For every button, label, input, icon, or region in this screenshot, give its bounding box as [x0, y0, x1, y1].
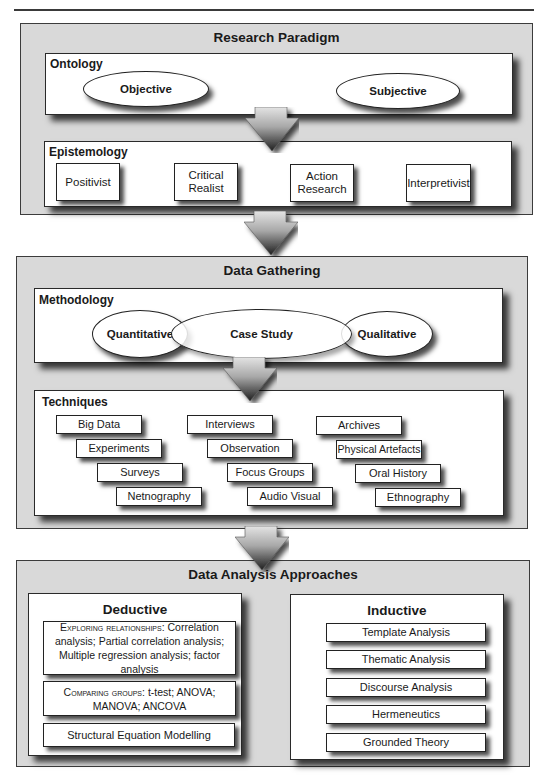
epistemology-interpretivist: Interpretivist [406, 164, 471, 202]
ontology-subjective: Subjective [336, 73, 460, 109]
arrow-down-icon [223, 357, 277, 403]
inductive-box: Inductive Template Analysis Thematic Ana… [290, 594, 504, 760]
technique-archives: Archives [316, 416, 402, 435]
epistemology-positivist: Positivist [56, 163, 120, 201]
deductive-comparing-groups: Comparing groups: t-test; ANOVA; MANOVA;… [43, 681, 236, 716]
technique-interviews: Interviews [187, 415, 273, 434]
epistemology-action-research: Action Research [290, 164, 354, 202]
ontology-objective: Objective [83, 71, 209, 107]
ontology-box: Ontology Objective Subjective [45, 53, 513, 115]
deductive-exploring-relationships: Exploring relationships: Correlation ana… [43, 621, 236, 675]
arrow-down-icon [245, 107, 299, 153]
deductive-sem: Structural Equation Modelling [43, 723, 235, 747]
techniques-box: Techniques Big Data Experiments Surveys … [34, 390, 504, 516]
deductive-title: Deductive [29, 602, 241, 617]
arrow-down-icon [235, 526, 289, 572]
research-paradigm-title: Research Paradigm [21, 30, 532, 45]
technique-focus-groups: Focus Groups [227, 463, 313, 482]
inductive-grounded-theory: Grounded Theory [326, 733, 486, 752]
inductive-template-analysis: Template Analysis [326, 623, 486, 642]
methodology-qualitative: Qualitative [341, 311, 433, 357]
inductive-thematic-analysis: Thematic Analysis [326, 650, 486, 669]
header-rule [14, 9, 534, 11]
ontology-title: Ontology [50, 57, 103, 71]
methodology-case-study: Case Study [171, 309, 352, 359]
technique-audio-visual: Audio Visual [247, 487, 333, 506]
data-gathering-title: Data Gathering [17, 263, 527, 278]
epistemology-critical-realist: Critical Realist [174, 163, 238, 201]
inductive-hermeneutics: Hermeneutics [326, 705, 486, 724]
comparing-groups-lead: Comparing groups [64, 686, 142, 698]
epistemology-title: Epistemology [49, 145, 128, 159]
technique-observation: Observation [207, 439, 293, 458]
exploring-relationships-lead: Exploring relationships [60, 621, 162, 633]
technique-experiments: Experiments [76, 439, 162, 458]
arrow-down-icon [244, 211, 298, 257]
technique-ethnography: Ethnography [375, 488, 461, 507]
technique-big-data: Big Data [56, 415, 142, 434]
technique-netnography: Netnography [116, 487, 202, 506]
methodology-title: Methodology [39, 293, 114, 307]
techniques-title: Techniques [42, 395, 108, 409]
technique-surveys: Surveys [97, 463, 183, 482]
technique-oral-history: Oral History [355, 464, 441, 483]
inductive-discourse-analysis: Discourse Analysis [326, 678, 486, 697]
methodology-box: Methodology Quantitative Qualitative Cas… [34, 288, 503, 363]
technique-physical-artefacts: Physical Artefacts [336, 440, 422, 459]
inductive-title: Inductive [291, 603, 503, 618]
deductive-box: Deductive Exploring relationships: Corre… [28, 593, 242, 756]
